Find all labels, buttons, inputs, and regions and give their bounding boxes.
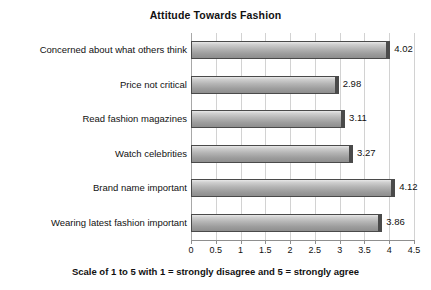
category-label: Concerned about what others think bbox=[0, 44, 187, 55]
x-axis-tick bbox=[315, 240, 316, 244]
x-axis-tick bbox=[290, 240, 291, 244]
bar-value-label: 3.86 bbox=[386, 216, 405, 227]
bar bbox=[191, 179, 395, 197]
bar-row: Concerned about what others think4.02 bbox=[191, 33, 414, 68]
bar bbox=[191, 145, 353, 163]
gridline bbox=[414, 33, 415, 240]
chart-title: Attitude Towards Fashion bbox=[0, 9, 431, 21]
bar-end-cap bbox=[341, 111, 344, 127]
bar bbox=[191, 41, 390, 59]
x-axis-tick bbox=[340, 240, 341, 244]
bar bbox=[191, 214, 382, 232]
category-label: Watch celebrities bbox=[0, 148, 187, 159]
bar-value-label: 4.02 bbox=[394, 43, 413, 54]
bar-row: Watch celebrities3.27 bbox=[191, 137, 414, 172]
bar-end-cap bbox=[391, 180, 394, 196]
bar-row: Price not critical2.98 bbox=[191, 68, 414, 103]
bar-row: Brand name important4.12 bbox=[191, 171, 414, 206]
category-label: Wearing latest fashion important bbox=[0, 217, 187, 228]
x-axis-tick bbox=[414, 240, 415, 244]
x-axis-line bbox=[191, 240, 415, 241]
bar-end-cap bbox=[335, 77, 338, 93]
x-axis-tick bbox=[241, 240, 242, 244]
category-label: Read fashion magazines bbox=[0, 113, 187, 124]
category-label: Price not critical bbox=[0, 79, 187, 90]
x-axis-tick bbox=[265, 240, 266, 244]
bar-value-label: 4.12 bbox=[399, 181, 418, 192]
bar bbox=[191, 110, 345, 128]
bar-end-cap bbox=[386, 42, 389, 58]
bar-row: Read fashion magazines3.11 bbox=[191, 102, 414, 137]
bar-value-label: 2.98 bbox=[343, 78, 362, 89]
x-axis-tick bbox=[364, 240, 365, 244]
x-axis-tick-label: 4.5 bbox=[398, 245, 430, 255]
bar-end-cap bbox=[349, 146, 352, 162]
bar-value-label: 3.27 bbox=[357, 147, 376, 158]
bar bbox=[191, 76, 339, 94]
category-label: Brand name important bbox=[0, 182, 187, 193]
chart-caption: Scale of 1 to 5 with 1 = strongly disagr… bbox=[0, 266, 431, 277]
bar-end-cap bbox=[378, 215, 381, 231]
x-axis-tick bbox=[389, 240, 390, 244]
chart-container: Attitude Towards Fashion Scale of 1 to 5… bbox=[0, 0, 431, 290]
x-axis-tick bbox=[216, 240, 217, 244]
x-axis-tick bbox=[191, 240, 192, 244]
bar-row: Wearing latest fashion important3.86 bbox=[191, 206, 414, 241]
bar-value-label: 3.11 bbox=[349, 112, 367, 123]
